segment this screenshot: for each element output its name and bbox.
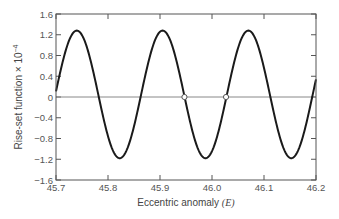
x-axis-label-symbol: (E) [222, 197, 235, 209]
y-tick-label: 1.6 [40, 9, 53, 20]
x-tick-label: 45.8 [99, 182, 118, 193]
y-tick-label: 1.2 [40, 29, 53, 40]
y-tick-label: −1.2 [34, 154, 53, 165]
root-marker-icon [223, 94, 228, 99]
rise-set-chart: 1.61.20.80.40−0.4−0.8−1.2−1.6 45.745.845… [0, 0, 339, 219]
y-tick-label: 0.4 [40, 71, 53, 82]
y-tick-label: 0.8 [40, 50, 53, 61]
x-tick-label: 45.7 [47, 182, 66, 193]
y-axis-label-text: Rise-set function × 10 [13, 52, 24, 149]
y-tick-label: 0 [48, 92, 53, 103]
y-axis-label-exponent: −4 [12, 44, 19, 52]
x-tick-label: 46.2 [307, 182, 326, 193]
x-tick-label: 45.9 [151, 182, 170, 193]
y-tick-label: −0.4 [34, 112, 53, 123]
x-tick-label: 46.0 [203, 182, 222, 193]
x-axis-label: Eccentric anomaly (E) [137, 197, 235, 209]
y-tick-label: −0.8 [34, 133, 53, 144]
root-marker-icon [182, 94, 187, 99]
y-axis-label: Rise-set function × 10−4 [12, 44, 24, 149]
x-tick-label: 46.1 [255, 182, 274, 193]
x-axis-label-text: Eccentric anomaly [137, 197, 221, 208]
